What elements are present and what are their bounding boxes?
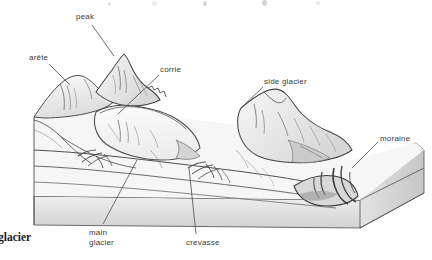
main-glacier-leader-line: [103, 160, 137, 224]
corrie-leader-line: [118, 75, 159, 114]
label-moraine: moraine: [380, 134, 410, 144]
crevasse-leader-line: [189, 168, 196, 234]
label-main-glacier-line1: main: [89, 228, 114, 238]
label-main-glacier: main glacier: [89, 228, 114, 247]
leader-line-layer: [0, 0, 432, 260]
label-crevasse: crevasse: [186, 238, 220, 248]
arete-leader-line: [49, 64, 70, 85]
label-arete: arête: [29, 53, 48, 63]
side-glacier-leader-line: [241, 87, 263, 108]
peak-leader-line: [92, 25, 114, 56]
label-peak: peak: [76, 12, 94, 22]
label-main-glacier-line2: glacier: [89, 238, 114, 248]
caption-glacier: glacier: [0, 231, 31, 243]
label-corrie: corrie: [160, 65, 181, 75]
moraine-leader-line: [352, 142, 378, 168]
label-side-glacier: side glacier: [264, 77, 307, 87]
glacier-block-diagram: peak arête corrie side glacier moraine c…: [0, 0, 432, 260]
